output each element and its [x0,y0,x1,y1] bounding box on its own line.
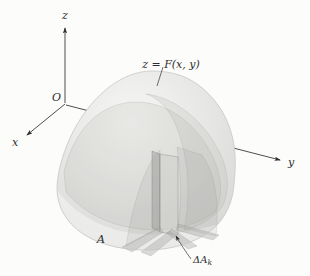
area-element-label-main: ΔA [192,254,207,265]
region-label: A [96,232,105,246]
column-front-face [160,154,178,235]
z-axis-label: z [61,9,68,22]
column-side-face [152,151,160,232]
x-axis-label: x [12,136,19,149]
surface-volume-diagram: z O x y z = F(x, y) A ΔAk [0,0,310,276]
y-axis-label: y [287,156,295,169]
figure: z O x y z = F(x, y) A ΔAk [0,0,310,276]
surface-equation-label: z = F(x, y) [141,58,200,71]
area-element-label-subscript: k [207,258,212,267]
origin-label: O [52,91,61,104]
